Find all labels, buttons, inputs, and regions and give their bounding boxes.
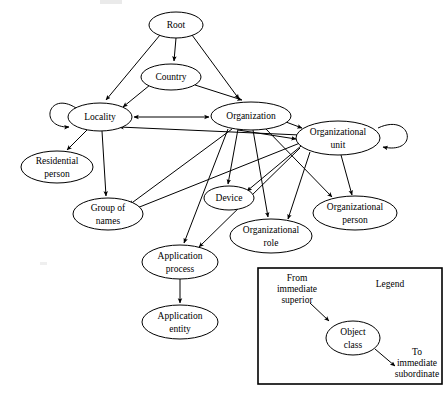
node-organizational-role-label-line1: Organizational	[243, 225, 300, 235]
edge-orgunit-to-org-role	[288, 152, 310, 219]
edge-organization-to-application-process	[184, 129, 228, 243]
diagram-canvas: Root Country Locality Organization Organ…	[0, 0, 448, 412]
node-residential-person[interactable]: Residential person	[21, 151, 93, 183]
diagram-svg: Root Country Locality Organization Organ…	[0, 0, 448, 412]
node-group-of-names-label-line2: names	[96, 216, 121, 226]
legend-from-label-line1: From	[287, 273, 308, 283]
node-application-process-label-line1: Application	[158, 251, 203, 261]
legend-to-label-line1: To	[412, 347, 422, 357]
edge-organization-to-org-role	[253, 130, 268, 217]
node-organizational-unit[interactable]: Organizational unit	[296, 121, 380, 155]
edge-locality-to-residential-person	[67, 130, 87, 150]
node-organizational-unit-label-line1: Organizational	[310, 127, 367, 137]
edge-root-to-country	[174, 38, 176, 61]
legend-from-label-line3: superior	[281, 295, 313, 305]
legend-title: Legend	[376, 279, 405, 289]
legend-object-class-label-line1: Object	[340, 327, 366, 337]
node-organizational-person[interactable]: Organizational person	[313, 196, 397, 230]
legend-from-label-line2: immediate	[277, 284, 317, 294]
node-device[interactable]: Device	[204, 186, 254, 210]
node-country[interactable]: Country	[141, 64, 201, 90]
node-application-process[interactable]: Application process	[142, 245, 218, 279]
edge-locality-to-group-of-names	[102, 131, 106, 196]
node-locality-label: Locality	[84, 112, 116, 122]
edge-orgunit-to-org-person	[341, 155, 352, 195]
node-organizational-role-label-line2: role	[264, 238, 279, 248]
legend-to-label-line2: immediate	[397, 358, 437, 368]
legend-object-class-label-line2: class	[344, 340, 363, 350]
edge-organization-to-device	[228, 129, 238, 184]
node-country-label: Country	[155, 72, 186, 82]
edge-layer	[50, 35, 407, 303]
edge-organization-to-orgunit	[286, 122, 302, 128]
node-root-label: Root	[167, 20, 186, 30]
node-device-label: Device	[216, 193, 243, 203]
node-organization-label: Organization	[226, 111, 276, 121]
edge-country-to-organization	[195, 85, 242, 100]
edge-country-to-locality	[123, 85, 150, 107]
node-residential-person-label-line1: Residential	[36, 156, 79, 166]
node-group-of-names-label-line1: Group of	[91, 203, 126, 213]
node-residential-person-label-line2: person	[44, 169, 70, 179]
node-organizational-person-label-line1: Organizational	[327, 202, 384, 212]
legend-to-label-line3: subordinate	[395, 369, 439, 379]
node-root[interactable]: Root	[149, 12, 203, 38]
node-organizational-unit-label-line2: unit	[331, 140, 346, 150]
node-locality[interactable]: Locality	[68, 103, 132, 131]
node-application-entity-label-line1: Application	[158, 311, 203, 321]
node-application-entity[interactable]: Application entity	[142, 305, 218, 339]
node-organizational-role[interactable]: Organizational role	[230, 219, 312, 253]
node-organization[interactable]: Organization	[211, 102, 291, 130]
edge-orgunit-self-loop	[378, 124, 407, 148]
node-application-process-label-line2: process	[166, 264, 195, 274]
edge-orgunit-to-device	[247, 146, 301, 191]
legend: Legend From immediate superior Object cl…	[258, 268, 442, 384]
node-group-of-names[interactable]: Group of names	[73, 198, 143, 230]
node-application-entity-label-line2: entity	[169, 324, 191, 334]
edge-root-to-organization	[192, 35, 239, 99]
node-organizational-person-label-line2: person	[342, 215, 368, 225]
